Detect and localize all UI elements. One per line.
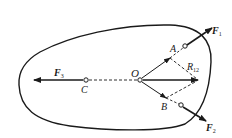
component-ob-arrow — [142, 82, 166, 98]
parallelogram-side-b — [166, 81, 197, 98]
rigid-body-outline — [19, 25, 211, 130]
label-c: C — [81, 84, 88, 95]
component-oa-arrow — [142, 58, 170, 78]
label-o: O — [131, 67, 139, 79]
dashed-line-b — [166, 98, 179, 104]
label-b: B — [161, 101, 167, 112]
force-f1-arrow — [187, 28, 212, 45]
force-f2-arrow — [183, 107, 206, 121]
point-c-marker — [84, 78, 88, 82]
point-f2-application-marker — [179, 103, 183, 107]
label-a: A — [169, 43, 177, 54]
point-f1-application-marker — [183, 44, 187, 48]
label-f1: F1 — [211, 25, 222, 37]
label-f2: F2 — [205, 122, 216, 134]
label-f3: F3 — [53, 67, 64, 79]
force-diagram: O C A B F1 F2 F3 R12 — [0, 0, 232, 138]
label-r12: R12 — [186, 61, 199, 73]
